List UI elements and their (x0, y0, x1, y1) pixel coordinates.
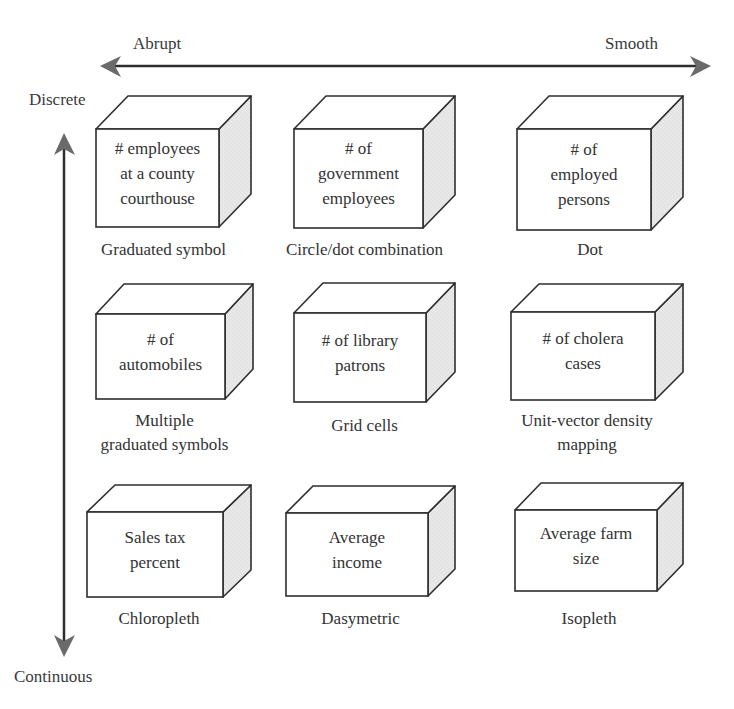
cell-caption: Dasymetric (251, 607, 471, 631)
box-label: # of choleracases (511, 314, 655, 388)
cell-caption-line: Circle/dot combination (255, 238, 475, 262)
box-label-line: persons (558, 187, 610, 212)
box-label-line: cases (565, 351, 601, 376)
box-label-line: size (573, 546, 599, 571)
cell-caption-line: Grid cells (255, 414, 475, 438)
box-label-line: # employees (115, 136, 200, 161)
cube-top-face (511, 284, 683, 312)
box-label-line: Sales tax (125, 525, 186, 550)
cube-top-face (515, 483, 683, 510)
box-label: Sales taxpercent (87, 514, 223, 585)
cell-caption: Dot (480, 238, 700, 262)
box-label: # ofgovernmentemployees (294, 131, 423, 216)
box-label: Averageincome (286, 515, 428, 584)
axis-label-discrete: Discrete (29, 91, 86, 108)
cell-caption-line: Unit-vector density (477, 409, 697, 433)
cell-caption-line: Chloropleth (49, 607, 269, 631)
axis-label-continuous: Continuous (14, 668, 92, 685)
cell-caption: Isopleth (479, 607, 699, 631)
box-label: # ofautomobiles (96, 316, 225, 387)
box-label-line: # of library (322, 328, 398, 353)
box-label-line: # of (571, 137, 598, 162)
cell-caption-line: graduated symbols (55, 433, 275, 457)
diagram-canvas: Abrupt Smooth Discrete Continuous # empl… (0, 0, 734, 709)
cell-caption: Graduated symbol (54, 238, 274, 262)
axis-label-abrupt: Abrupt (133, 35, 181, 52)
box-label-line: automobiles (119, 352, 202, 377)
box-label-line: percent (130, 550, 180, 575)
cell-caption: Grid cells (255, 414, 475, 438)
axis-label-smooth: Smooth (605, 35, 658, 52)
box-label-line: # of (147, 327, 174, 352)
box-label-line: employees (322, 186, 395, 211)
box-label: # employeesat a countycourthouse (96, 131, 219, 215)
horizontal-axis-arrow (100, 56, 711, 77)
cube-top-face (286, 486, 455, 513)
box-label-line: courthouse (120, 186, 195, 211)
box-label-line: income (332, 550, 382, 575)
cell-caption: Unit-vector densitymapping (477, 409, 697, 457)
box-label: # ofemployedpersons (517, 131, 651, 218)
cell-caption-line: mapping (477, 433, 697, 457)
box-label-line: Average (329, 525, 385, 550)
box-label: # of librarypatrons (294, 315, 426, 390)
cell-caption-line: Isopleth (479, 607, 699, 631)
vertical-axis-arrow (54, 133, 75, 657)
cube-top-face (87, 485, 251, 512)
box-label-line: Average farm (540, 521, 633, 546)
box-label-line: government (318, 161, 399, 186)
box-label-line: at a county (120, 161, 195, 186)
cell-caption-line: Multiple (55, 409, 275, 433)
cube-top-face (96, 284, 253, 314)
box-label-line: employed (550, 162, 617, 187)
cell-caption-line: Graduated symbol (54, 238, 274, 262)
box-label: Average farmsize (515, 512, 657, 579)
cube-top-face (294, 283, 455, 313)
box-label-line: # of cholera (542, 326, 623, 351)
box-label-line: patrons (335, 353, 385, 378)
cell-caption: Circle/dot combination (255, 238, 475, 262)
cell-caption: Multiplegraduated symbols (55, 409, 275, 457)
cell-caption: Chloropleth (49, 607, 269, 631)
box-label-line: # of (345, 136, 372, 161)
cell-caption-line: Dasymetric (251, 607, 471, 631)
cell-caption-line: Dot (480, 238, 700, 262)
